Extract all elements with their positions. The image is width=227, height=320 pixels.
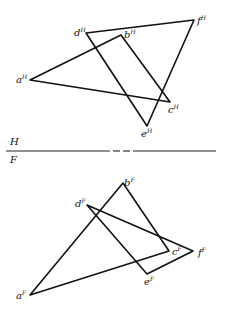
top-view-H: aHbHcHdHeHfH [16, 14, 207, 139]
point-label-b-H: bH [124, 28, 136, 40]
point-label-d-H: dH [74, 26, 86, 38]
reference-line-H-F: H F [6, 136, 216, 165]
point-label-f-H: fH [196, 14, 207, 26]
point-label-b-F: bF [124, 176, 135, 188]
point-label-c-F: cF [172, 245, 183, 257]
front-view-F: aFbFcFdFeFfF [16, 176, 207, 301]
triangle-def-H [86, 20, 194, 126]
point-label-c-H: cH [168, 103, 180, 115]
plane-label-F: F [9, 154, 18, 165]
point-label-e-F: eF [144, 275, 155, 287]
plane-label-H: H [9, 136, 19, 147]
point-label-e-H: eH [141, 127, 153, 139]
point-label-d-F: dF [75, 197, 86, 209]
point-label-a-F: aF [16, 289, 27, 301]
point-label-f-F: fF [197, 246, 207, 258]
triangle-abc-H [30, 35, 170, 102]
point-label-a-H: aH [16, 73, 28, 85]
projection-diagram: aHbHcHdHeHfH H F aFbFcFdFeFfF [0, 0, 227, 320]
triangle-def-F [87, 205, 193, 274]
